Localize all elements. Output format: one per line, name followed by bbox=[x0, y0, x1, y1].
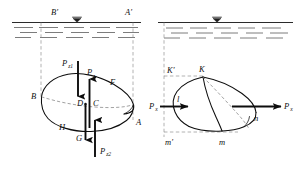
label-point-m-prime: m′ bbox=[165, 137, 173, 147]
water-hatching-right bbox=[164, 28, 288, 38]
label-point-d: D bbox=[76, 98, 84, 108]
figure-root: B′ A′ P z1 P z G P z2 B A F H bbox=[0, 0, 303, 170]
body-top-surface-curve bbox=[42, 74, 134, 114]
free-surface-symbol-right bbox=[212, 17, 222, 22]
label-force-px-left: P x bbox=[148, 101, 158, 112]
label-force-pz1-subscript: z1 bbox=[67, 63, 73, 69]
label-point-k: K bbox=[198, 64, 206, 74]
label-point-c: C bbox=[93, 98, 99, 108]
label-force-px-right-subscript: x bbox=[289, 106, 293, 112]
label-force-px-right-symbol: P bbox=[283, 101, 289, 111]
label-point-n: n bbox=[254, 113, 258, 123]
body-front-crease-right bbox=[203, 77, 222, 131]
left-panel-group: B′ A′ P z1 P z G P z2 B A F H bbox=[12, 7, 142, 157]
label-a-prime: A′ bbox=[124, 7, 132, 17]
right-panel-group: K′ K l n m′ m P x P x bbox=[148, 17, 293, 147]
label-force-pz1-symbol: P bbox=[61, 58, 67, 68]
label-force-px-right: P x bbox=[283, 101, 293, 112]
body-lower-right-curve bbox=[222, 113, 256, 132]
body-hidden-edge bbox=[42, 97, 134, 108]
label-force-px-left-symbol: P bbox=[148, 101, 154, 111]
label-force-pz-subscript: z bbox=[92, 73, 96, 79]
label-point-l: l bbox=[177, 94, 180, 104]
label-force-px-left-subscript: x bbox=[154, 106, 158, 112]
label-point-a: A bbox=[135, 117, 142, 127]
label-force-pz-symbol: P bbox=[86, 67, 92, 77]
label-b-prime: B′ bbox=[51, 7, 58, 17]
label-force-g: G bbox=[76, 133, 82, 143]
label-force-pz: P z bbox=[86, 67, 96, 78]
label-point-m: m bbox=[219, 137, 225, 147]
label-force-pz1: P z1 bbox=[61, 58, 73, 69]
body-lower-surface-curve bbox=[41, 97, 133, 132]
water-hatching-left bbox=[14, 28, 139, 38]
label-point-f: F bbox=[109, 77, 116, 87]
label-force-pz2: P z2 bbox=[99, 146, 111, 157]
body-bottom-left-curve bbox=[189, 127, 222, 132]
label-point-h: H bbox=[58, 122, 66, 132]
label-force-pz2-symbol: P bbox=[99, 146, 105, 156]
label-point-k-prime: K′ bbox=[166, 65, 175, 75]
label-force-pz2-subscript: z2 bbox=[105, 151, 111, 157]
free-surface-symbol-left bbox=[72, 17, 82, 22]
label-point-b: B bbox=[31, 91, 36, 101]
diagram-canvas: B′ A′ P z1 P z G P z2 B A F H bbox=[0, 0, 303, 170]
